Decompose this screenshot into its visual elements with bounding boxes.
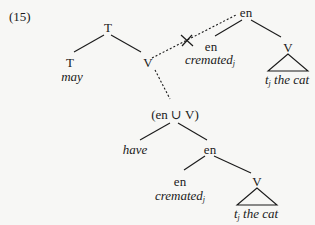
phrase-trace-the-cat-moved: tj the cat	[265, 73, 309, 90]
example-number: (15)	[9, 10, 31, 23]
node-V-upper: V	[143, 56, 152, 69]
node-V-lower: V	[252, 175, 261, 188]
word-have: have	[123, 143, 148, 156]
node-T-head: T	[66, 56, 74, 69]
syntax-tree-diagram: (15) T T may V en en crematedj V tj the …	[0, 0, 315, 225]
node-en-union-V: (en ∪ V)	[151, 108, 198, 121]
node-en-lower-head: en	[174, 175, 186, 188]
word-cremated-moved: crematedj	[185, 53, 235, 70]
node-en-moved-root: en	[240, 6, 252, 19]
node-T-root: T	[104, 21, 112, 34]
phrase-trace-the-cat-lower: tj the cat	[234, 207, 278, 224]
node-V-moved: V	[283, 41, 292, 54]
word-may: may	[61, 70, 83, 83]
word-cremated-lower: crematedj	[155, 189, 205, 206]
node-en-lower: en	[204, 143, 216, 156]
